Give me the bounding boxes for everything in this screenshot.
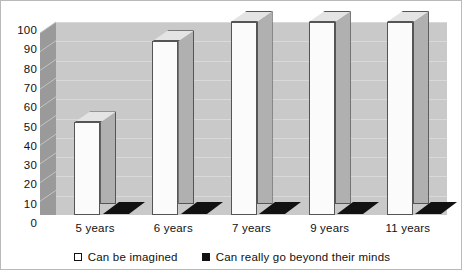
y-axis-tick-label: 100 (1, 25, 37, 37)
bar-side-face (413, 11, 429, 204)
bar-can-really-go-beyond-their-minds (103, 202, 145, 215)
bar-can-be-imagined (152, 30, 194, 215)
y-axis-tick-label: 50 (1, 122, 37, 134)
bar-can-be-imagined (387, 11, 429, 215)
bar-front-face (152, 41, 178, 215)
x-axis-tick-label: 5 years (76, 222, 115, 235)
legend-label: Can be imagined (88, 251, 178, 263)
y-axis-tick-label: 80 (1, 64, 37, 76)
legend-swatch-filled-square-icon (202, 253, 210, 261)
legend-swatch-hollow-square-icon (74, 253, 82, 261)
bar-front-face (231, 22, 257, 215)
bar-front-face (387, 22, 413, 215)
y-axis-tick-label: 40 (1, 141, 37, 153)
x-axis-tick-label: 11 years (385, 222, 430, 235)
bar-can-really-go-beyond-their-minds (415, 202, 457, 215)
chart-legend: Can be imagined Can really go beyond the… (1, 248, 462, 266)
y-axis-tick-label: 30 (1, 160, 37, 172)
y-axis-tick-label: 10 (1, 199, 37, 211)
bar-side-face (335, 11, 351, 204)
bar-can-really-go-beyond-their-minds (259, 202, 301, 215)
y-axis-tick-label: 90 (1, 45, 37, 57)
legend-item-can-be-imagined: Can be imagined (74, 251, 178, 263)
bar-can-really-go-beyond-their-minds (337, 202, 379, 215)
x-axis-labels: 5 years6 years7 years9 years11 years (40, 222, 447, 238)
bar-side-face (178, 30, 194, 204)
legend-item-can-really-go-beyond-their-minds: Can really go beyond their minds (202, 251, 391, 263)
y-axis-tick-label: 60 (1, 102, 37, 114)
y-axis-tick-label: 20 (1, 180, 37, 192)
y-axis-tick-label: 0 (1, 218, 37, 230)
legend-label: Can really go beyond their minds (216, 251, 391, 263)
plot-area (40, 17, 447, 215)
chart-figure: 1009080706050403020100 5 years6 yea (0, 0, 462, 270)
bar-can-be-imagined (74, 111, 116, 215)
bar-side-face (257, 11, 273, 204)
bar-can-really-go-beyond-their-minds (181, 202, 223, 215)
bar-can-be-imagined (231, 11, 273, 215)
x-axis-tick-label: 9 years (310, 222, 349, 235)
bar-side-face (100, 111, 116, 204)
x-axis-tick-label: 7 years (232, 222, 271, 235)
bar-front-face (74, 122, 100, 215)
bar-can-be-imagined (309, 11, 351, 215)
y-axis: 1009080706050403020100 (1, 15, 37, 219)
x-axis-tick-label: 6 years (154, 222, 193, 235)
bar-front-face (309, 22, 335, 215)
y-axis-tick-label: 70 (1, 83, 37, 95)
